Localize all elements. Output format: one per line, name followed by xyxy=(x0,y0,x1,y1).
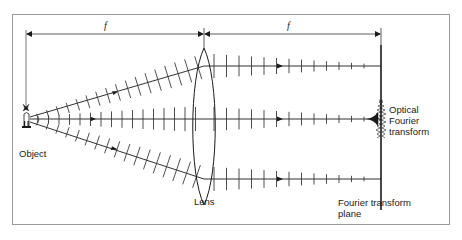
focal-length-label-right: f xyxy=(287,20,290,31)
lens-shape xyxy=(193,48,216,205)
object-icon xyxy=(22,104,31,128)
ft-plane-label: Fourier transform plane xyxy=(338,197,411,219)
ft-plane-label-line2: plane xyxy=(338,208,411,219)
ray-paths xyxy=(30,66,381,179)
optical-ft-label: Optical Fourier transform xyxy=(389,104,429,137)
lens-label: Lens xyxy=(194,196,215,207)
wavefront-ticks xyxy=(36,54,364,191)
ray-arrows xyxy=(90,64,283,182)
focal-length-dimension xyxy=(26,28,381,110)
optical-ft-label-line2: Fourier xyxy=(389,115,429,126)
optical-ft-label-line1: Optical xyxy=(389,104,429,115)
optical-ft-label-line3: transform xyxy=(389,126,429,137)
fourier-spectrum-icon xyxy=(366,100,386,138)
focal-length-label-left: f xyxy=(104,20,107,31)
object-label: Object xyxy=(19,148,46,159)
ft-plane-label-line1: Fourier transform xyxy=(338,197,411,208)
